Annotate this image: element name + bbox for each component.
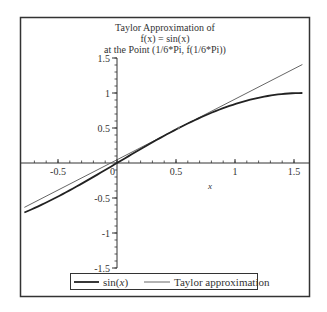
x-axis-label: x xyxy=(207,181,212,191)
legend-label-sin: sin(x) xyxy=(103,276,128,289)
y-tick-label: 1 xyxy=(105,88,110,99)
x-tick-label: 1.5 xyxy=(288,166,301,177)
y-tick-label: -0.5 xyxy=(94,193,110,204)
y-tick-label: 0.5 xyxy=(98,123,111,134)
legend: sin(x) Taylor approximation xyxy=(71,274,270,290)
y-tick-label: 1.5 xyxy=(98,53,111,64)
chart-frame xyxy=(21,18,310,297)
y-tick-label: -1 xyxy=(102,228,110,239)
title-line-3: at the Point (1/6*Pi, f(1/6*Pi)) xyxy=(104,44,226,56)
legend-label-taylor: Taylor approximation xyxy=(174,276,270,288)
title-line-1: Taylor Approximation of xyxy=(115,22,216,33)
expansion-point-marker xyxy=(177,127,180,130)
x-tick-label: 1 xyxy=(233,166,238,177)
x-tick-label: 0.5 xyxy=(170,166,183,177)
chart: Taylor Approximation of f(x) = sin(x) at… xyxy=(0,0,327,312)
y-tick-label: -1.5 xyxy=(94,263,110,274)
x-tick-label: -0.5 xyxy=(50,166,66,177)
